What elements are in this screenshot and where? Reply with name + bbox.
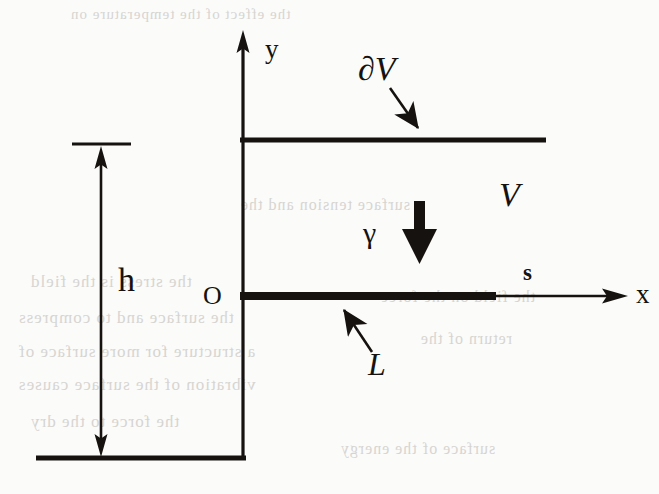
- height-label: h: [118, 263, 135, 297]
- thick-arrow-down-icon: [402, 201, 437, 264]
- boundary-label: ∂V: [358, 52, 396, 86]
- figure-container: the effect of the temperature onsurface …: [0, 0, 659, 494]
- double-arrow-vertical-icon: [95, 146, 108, 457]
- y-axis-label: y: [265, 36, 279, 63]
- y-axis: [237, 30, 250, 460]
- volume-label: V: [499, 178, 520, 212]
- crack-label: L: [368, 348, 386, 380]
- origin-label: O: [203, 283, 222, 309]
- surface-tension-label: γ: [363, 218, 376, 248]
- arrow-down-right-icon: [390, 88, 418, 128]
- diagram-linework: [0, 0, 659, 494]
- x-axis-label: x: [636, 281, 650, 308]
- arc-length-label: s: [523, 261, 532, 284]
